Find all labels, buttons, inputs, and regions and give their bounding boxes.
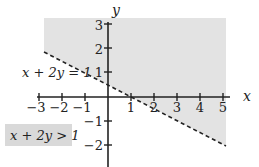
x-tick-label: 5 xyxy=(219,101,227,114)
x-tick-label: −3 xyxy=(26,101,45,114)
y-tick-label: 3 xyxy=(95,19,103,32)
x-tick-label: 2 xyxy=(150,101,158,114)
x-tick-label: 3 xyxy=(173,101,181,114)
x-tick-label: 1 xyxy=(127,101,135,114)
x-tick-label: −1 xyxy=(72,101,91,114)
x-tick-label: 4 xyxy=(196,101,204,114)
x-axis-label: x xyxy=(243,89,251,103)
y-axis-label: y xyxy=(112,3,120,17)
boundary-equation-label: x + 2y = 1 xyxy=(22,66,92,79)
x-tick-label: −2 xyxy=(49,101,68,114)
y-tick-label: 2 xyxy=(95,43,103,56)
y-tick-label: 1 xyxy=(95,66,103,79)
y-tick-label: −1 xyxy=(84,115,103,128)
inequality-label: x + 2y > 1 xyxy=(10,129,80,142)
y-tick-label: −2 xyxy=(84,139,103,152)
